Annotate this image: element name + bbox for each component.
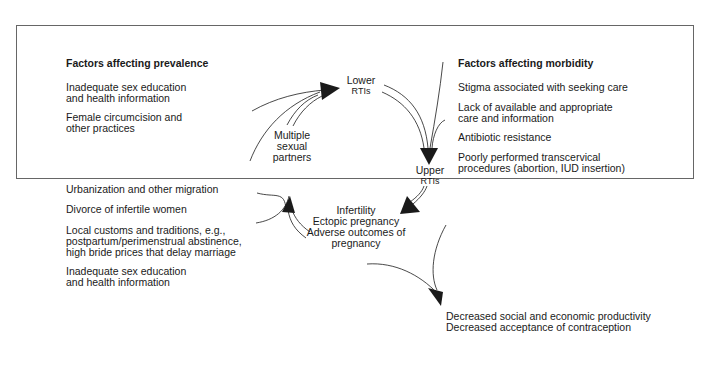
prevalence-heading: Factors affecting prevalence (66, 58, 208, 69)
morbidity-item: Stigma associated with seeking care (458, 82, 628, 93)
morbidity-heading: Factors affecting morbidity (458, 58, 593, 69)
node-line: pregnancy (300, 238, 412, 249)
item-line: high bride prices that delay marriage (66, 247, 242, 258)
consequence-line: Decreased acceptance of contraception (446, 322, 651, 333)
prevalence-item: Inadequate sex education and health info… (66, 266, 186, 288)
morbidity-item: Lack of available and appropriate care a… (458, 102, 613, 124)
item-line: Urbanization and other migration (66, 184, 218, 195)
prevalence-item: Local customs and traditions, e.g., post… (66, 225, 242, 258)
node-line: Lower (340, 75, 382, 86)
item-line: Antibiotic resistance (458, 132, 551, 143)
morbidity-item: Antibiotic resistance (458, 132, 551, 143)
node-line: RTIs (410, 176, 450, 187)
item-line: Stigma associated with seeking care (458, 82, 628, 93)
consequences: Decreased social and economic productivi… (446, 311, 651, 333)
prevalence-item: Female circumcision and other practices (66, 112, 182, 134)
item-line: and health information (66, 93, 186, 104)
item-line: and health information (66, 277, 186, 288)
node-multiple-partners: Multiple sexual partners (264, 130, 320, 163)
node-line: RTIs (340, 86, 382, 97)
item-line: procedures (abortion, IUD insertion) (458, 163, 625, 174)
node-upper-rtis: Upper RTIs (410, 165, 450, 187)
prevalence-item: Inadequate sex education and health info… (66, 82, 186, 104)
item-line: Divorce of infertile women (66, 204, 187, 215)
prevalence-item: Urbanization and other migration (66, 184, 218, 195)
node-line: partners (264, 152, 320, 163)
node-lower-rtis: Lower RTIs (340, 75, 382, 97)
node-outcomes: Infertility Ectopic pregnancy Adverse ou… (300, 205, 412, 249)
morbidity-item: Poorly performed transcervical procedure… (458, 152, 625, 174)
item-line: care and information (458, 113, 613, 124)
prevalence-item: Divorce of infertile women (66, 204, 187, 215)
node-line: Upper (410, 165, 450, 176)
item-line: other practices (66, 123, 182, 134)
